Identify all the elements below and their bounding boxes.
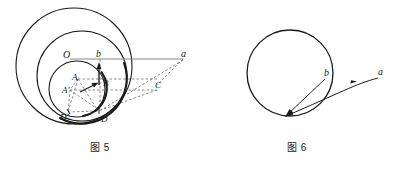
- arc-a-mid-arrowhead: [350, 80, 357, 83]
- label-D: D: [100, 114, 108, 124]
- figure-6-block: b a 图 6: [200, 0, 394, 170]
- dashed-Aprime-to-D: [70, 90, 99, 110]
- figure-6-caption: 图 6: [200, 139, 394, 154]
- figure-5-drawing: O b a A A' B C D D': [0, 0, 200, 140]
- vector-to-B-arrowhead: [91, 83, 98, 88]
- label-A: A: [71, 72, 78, 82]
- middle-circle: [37, 31, 127, 121]
- main-circle: [247, 30, 333, 116]
- figure-page: O b a A A' B C D D' 图 5 b: [0, 0, 394, 170]
- heavy-arc-middle: [60, 63, 127, 124]
- label-a: a: [378, 66, 383, 77]
- label-b: b: [96, 48, 101, 59]
- dashed-a-to-D: [101, 60, 183, 110]
- label-B: B: [103, 78, 109, 88]
- vector-b-shaft: [286, 79, 325, 116]
- label-a: a: [181, 48, 186, 59]
- vector-b-arrowhead: [97, 62, 102, 69]
- figure-5-caption: 图 5: [0, 139, 200, 154]
- label-A-prime: A': [61, 85, 70, 95]
- figure-6-drawing: b a: [200, 0, 394, 140]
- figure-5-block: O b a A A' B C D D' 图 5: [0, 0, 200, 170]
- label-center-O: O: [63, 49, 70, 60]
- label-C: C: [155, 80, 162, 90]
- label-D-prime: D': [59, 112, 69, 122]
- label-b: b: [324, 67, 329, 78]
